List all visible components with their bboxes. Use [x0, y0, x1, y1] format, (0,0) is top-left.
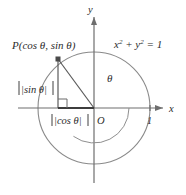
equation-tail: = 1 [144, 38, 162, 50]
figure-canvas: P(cos θ, sin θ) x2 + y2 = 1 |sin θ| |cos… [0, 0, 186, 195]
svg-text:x2 + y2 = 1: x2 + y2 = 1 [113, 38, 162, 50]
y-axis-arrowhead [91, 17, 97, 25]
unit-tick-label: 1 [147, 115, 152, 126]
origin-label: O [97, 115, 105, 126]
radius-segment-op [58, 59, 94, 108]
point-p-marker [56, 57, 61, 62]
adjacent-side-label: |cos θ| [54, 115, 82, 126]
circle-equation-label: x2 + y2 = 1 [113, 38, 162, 50]
point-p-label: P(cos θ, sin θ) [11, 39, 76, 52]
right-angle-marker [58, 99, 67, 108]
x-axis-arrowhead [155, 105, 163, 111]
equation-middle: + y [122, 38, 140, 50]
angle-theta-label: θ [107, 72, 113, 84]
y-axis-label: y [87, 4, 93, 15]
unit-circle-figure: P(cos θ, sin θ) x2 + y2 = 1 |sin θ| |cos… [0, 0, 186, 195]
x-axis-label: x [168, 103, 174, 114]
opposite-side-label: |sin θ| [21, 84, 47, 95]
